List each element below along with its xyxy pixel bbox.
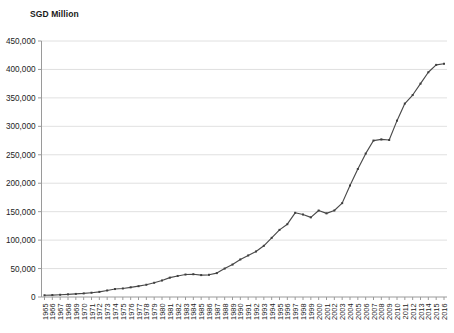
- data-point-marker: [232, 264, 234, 266]
- data-point-marker: [420, 83, 422, 85]
- data-point-marker: [239, 258, 241, 260]
- data-point-marker: [208, 274, 210, 276]
- data-point-marker: [130, 286, 132, 288]
- data-point-marker: [396, 120, 398, 122]
- x-tick-label: 2016: [440, 304, 449, 320]
- data-point-marker: [122, 287, 124, 289]
- data-point-marker: [75, 293, 77, 295]
- data-point-marker: [224, 268, 226, 270]
- data-point-marker: [427, 71, 429, 73]
- gridlines-group: [42, 41, 448, 269]
- data-point-marker: [380, 138, 382, 140]
- data-point-marker: [177, 275, 179, 277]
- data-point-marker: [185, 274, 187, 276]
- y-tick-label: 250,000: [6, 151, 36, 160]
- data-point-marker: [373, 140, 375, 142]
- y-tick-label: 300,000: [6, 122, 36, 131]
- y-tick-label: 50,000: [10, 265, 35, 274]
- data-point-marker: [326, 212, 328, 214]
- data-series-line: [45, 64, 445, 296]
- data-point-marker: [349, 185, 351, 187]
- data-point-marker: [341, 202, 343, 204]
- data-point-marker: [161, 280, 163, 282]
- y-tick-label: 0: [31, 293, 36, 302]
- data-point-marker: [302, 214, 304, 216]
- y-tick-label: 100,000: [6, 236, 36, 245]
- y-tick-marks: [38, 41, 42, 297]
- data-point-marker: [200, 274, 202, 276]
- data-point-marker: [333, 210, 335, 212]
- data-point-marker: [67, 293, 69, 295]
- data-point-marker: [98, 291, 100, 293]
- data-point-marker: [365, 153, 367, 155]
- data-point-marker: [255, 250, 257, 252]
- data-point-marker: [388, 139, 390, 141]
- data-point-marker: [294, 212, 296, 214]
- data-point-marker: [412, 94, 414, 96]
- data-point-marker: [153, 282, 155, 284]
- data-point-marker: [44, 294, 46, 296]
- data-point-marker: [145, 284, 147, 286]
- data-point-marker: [192, 273, 194, 275]
- data-point-marker: [91, 292, 93, 294]
- y-tick-label: 450,000: [6, 37, 36, 46]
- data-point-marker: [106, 289, 108, 291]
- data-point-marker: [51, 294, 53, 296]
- data-point-marker: [169, 277, 171, 279]
- chart-container: SGD Million 450,000400,000350,000300,000…: [0, 0, 454, 333]
- data-point-marker: [279, 229, 281, 231]
- data-point-marker: [435, 64, 437, 66]
- y-tick-label: 150,000: [6, 208, 36, 217]
- line-chart-plot: 450,000400,000350,000300,000250,000200,0…: [0, 0, 454, 333]
- y-tick-label: 400,000: [6, 65, 36, 74]
- data-point-marker: [357, 168, 359, 170]
- x-tick-labels: 1965196619671968196919701971197219731974…: [41, 304, 450, 320]
- data-point-marker: [247, 254, 249, 256]
- data-point-marker: [318, 210, 320, 212]
- data-point-marker: [404, 103, 406, 105]
- data-point-marker: [286, 223, 288, 225]
- y-tick-label: 200,000: [6, 179, 36, 188]
- y-tick-label: 350,000: [6, 94, 36, 103]
- data-point-marker: [114, 288, 116, 290]
- data-point-marker: [443, 63, 445, 65]
- data-point-marker: [271, 237, 273, 239]
- data-point-marker: [59, 294, 61, 296]
- data-point-marker: [263, 245, 265, 247]
- data-point-marker: [310, 216, 312, 218]
- data-point-marker: [216, 272, 218, 274]
- data-point-marker: [138, 285, 140, 287]
- data-point-marker: [83, 292, 85, 294]
- y-tick-labels: 450,000400,000350,000300,000250,000200,0…: [6, 37, 36, 302]
